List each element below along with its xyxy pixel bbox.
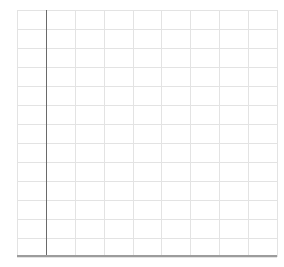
- gridlines: [17, 10, 277, 257]
- gridline-horizontal: [17, 86, 277, 87]
- gridline-horizontal: [17, 29, 277, 30]
- gridline-horizontal: [17, 238, 277, 239]
- gridline-horizontal: [17, 143, 277, 144]
- gridline-vertical: [277, 10, 278, 257]
- gridline-horizontal: [17, 48, 277, 49]
- gridline-horizontal: [17, 181, 277, 182]
- plot-area: [17, 10, 277, 257]
- gridline-horizontal: [17, 105, 277, 106]
- gridline-horizontal: [17, 200, 277, 201]
- gridline-horizontal: [17, 67, 277, 68]
- gridline-horizontal: [17, 162, 277, 163]
- gridline-horizontal: [17, 10, 277, 11]
- y-axis-line: [46, 10, 47, 257]
- gridline-horizontal: [17, 219, 277, 220]
- x-axis-line: [17, 255, 277, 257]
- gridline-horizontal: [17, 257, 277, 258]
- gridline-horizontal: [17, 124, 277, 125]
- empty-chart-canvas: [0, 0, 284, 267]
